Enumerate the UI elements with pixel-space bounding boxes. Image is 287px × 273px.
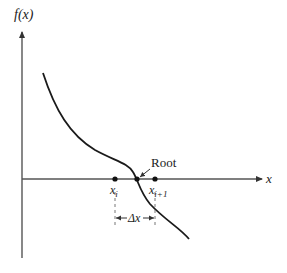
y-axis-label: f(x)	[14, 7, 34, 23]
point-xi	[112, 176, 117, 181]
delta-x-label: Δx	[127, 211, 141, 225]
point-root	[134, 176, 139, 181]
xi-label: xi	[109, 183, 118, 199]
x-axis-label: x	[265, 171, 272, 186]
xi1-label: xi+1	[148, 183, 167, 199]
root-label: Root	[151, 155, 177, 170]
point-xi1	[152, 176, 157, 181]
root-pointer-arrow	[140, 169, 150, 177]
root-bracketing-diagram: f(x) x Root xi xi+1 Δx	[0, 0, 287, 273]
